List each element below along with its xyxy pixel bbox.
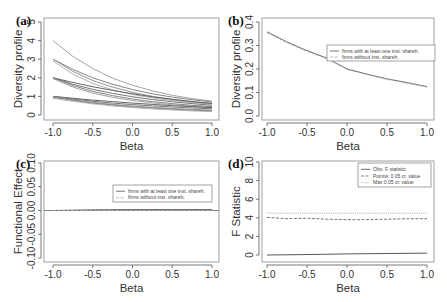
x-tick-label: 0.0 bbox=[126, 127, 140, 138]
y-tick-label: 8 bbox=[244, 177, 255, 183]
y-tick-label: 5 bbox=[26, 19, 37, 25]
y-tick-label: 0 bbox=[26, 112, 37, 118]
panel-c: (c)-1.0-0.50.00.51.0Beta-0.10-0.050.000.… bbox=[12, 153, 219, 294]
x-tick-label: 1.0 bbox=[420, 127, 434, 138]
panel-label: (d) bbox=[228, 156, 244, 171]
x-axis: -1.0-0.50.00.51.0 bbox=[44, 265, 219, 280]
y-tick-label: 0.0 bbox=[244, 109, 255, 123]
y-tick-label: 1 bbox=[26, 93, 37, 99]
x-axis: -1.0-0.50.00.51.0 bbox=[258, 123, 434, 138]
y-tick-label: 4 bbox=[26, 37, 37, 43]
panel-b: (b)-1.0-0.50.00.51.0Beta0.00.10.20.30.4D… bbox=[228, 13, 435, 152]
y-tick-label: 3 bbox=[26, 56, 37, 62]
y-tick-label: 6 bbox=[244, 196, 255, 202]
series-line-pointw-0-05-cr-value bbox=[267, 217, 427, 219]
panel-label: (b) bbox=[228, 13, 244, 28]
panel-a: (a)-1.0-0.50.00.51.0Beta012345Diversity … bbox=[12, 13, 219, 152]
x-tick-label: -0.5 bbox=[298, 127, 316, 138]
x-tick-label: -1.0 bbox=[258, 127, 276, 138]
x-axis-label: Beta bbox=[336, 140, 360, 152]
y-axis-label: Diversity profile bbox=[230, 30, 242, 109]
y-tick-label: 10 bbox=[244, 156, 255, 168]
x-tick-label: 0.0 bbox=[340, 127, 354, 138]
plot-frame bbox=[44, 161, 219, 262]
x-axis: -1.0-0.50.00.51.0 bbox=[258, 265, 434, 280]
x-tick-label: 1.0 bbox=[205, 269, 219, 280]
x-tick-label: 0.5 bbox=[380, 269, 394, 280]
x-axis: -1.0-0.50.00.51.0 bbox=[44, 123, 219, 138]
y-axis-label: Diversity profile bbox=[12, 30, 24, 109]
x-tick-label: -0.5 bbox=[298, 269, 316, 280]
x-tick-label: 1.0 bbox=[205, 127, 219, 138]
legend-entry-label: Obs. F statistic bbox=[373, 166, 407, 172]
legend: Obs. F statisticPointw. 0.05 cr. valueMa… bbox=[358, 163, 431, 187]
x-tick-label: 1.0 bbox=[420, 269, 434, 280]
legend-entry-label: Max 0.05 cr. value bbox=[373, 179, 414, 185]
y-tick-label: 0.2 bbox=[244, 62, 255, 76]
x-tick-label: 0.5 bbox=[380, 127, 394, 138]
x-axis-label: Beta bbox=[120, 282, 144, 294]
y-tick-label: 0 bbox=[244, 252, 255, 258]
y-tick-label: -0.05 bbox=[26, 222, 37, 245]
y-tick-label: 0.1 bbox=[244, 85, 255, 99]
x-tick-label: -0.5 bbox=[84, 127, 102, 138]
y-axis: 0.00.10.20.30.4 bbox=[244, 15, 259, 123]
x-tick-label: -1.0 bbox=[44, 127, 62, 138]
y-tick-label: 0.4 bbox=[244, 15, 255, 29]
series-line-obs-f-statistic bbox=[267, 253, 427, 255]
legend-entry-label: firms with at least one inst. shareh. bbox=[128, 188, 205, 194]
x-tick-label: 0.0 bbox=[126, 269, 140, 280]
legend-entry-label: firms without inst. shareh. bbox=[128, 194, 185, 200]
y-axis: -0.10-0.050.000.050.10 bbox=[26, 153, 41, 270]
y-axis: 0246810 bbox=[244, 156, 259, 258]
legend-entry-label: Pointw. 0.05 cr. value bbox=[373, 173, 420, 179]
y-axis: 012345 bbox=[26, 19, 41, 118]
x-tick-label: -0.5 bbox=[84, 269, 102, 280]
x-tick-label: 0.5 bbox=[165, 269, 179, 280]
series-group bbox=[53, 41, 212, 112]
x-axis-label: Beta bbox=[336, 282, 360, 294]
y-axis-label: Functional Effect bbox=[12, 168, 24, 254]
legend-entry-label: firms without inst. shareh. bbox=[342, 54, 399, 60]
y-tick-label: 0.05 bbox=[26, 177, 37, 197]
series-line-curve-2 bbox=[53, 59, 212, 102]
y-tick-label: 0.00 bbox=[26, 200, 37, 220]
legend: firms with at least one inst. shareh.fir… bbox=[327, 45, 435, 61]
y-tick-label: 0.3 bbox=[244, 38, 255, 52]
y-tick-label: 2 bbox=[244, 233, 255, 239]
x-tick-label: 0.5 bbox=[165, 127, 179, 138]
figure-canvas: (a)-1.0-0.50.00.51.0Beta012345Diversity … bbox=[0, 0, 447, 302]
y-tick-label: 0.10 bbox=[26, 153, 37, 173]
y-axis-label: F Statistic bbox=[230, 186, 242, 237]
series-group bbox=[267, 213, 427, 255]
x-tick-label: 0.0 bbox=[340, 269, 354, 280]
series-group bbox=[53, 210, 212, 211]
panel-d: (d)-1.0-0.50.00.51.0Beta0246810F Statist… bbox=[228, 156, 434, 294]
x-tick-label: -1.0 bbox=[44, 269, 62, 280]
x-tick-label: -1.0 bbox=[258, 269, 276, 280]
legend: firms with at least one inst. shareh.fir… bbox=[113, 185, 212, 202]
y-tick-label: -0.10 bbox=[26, 246, 37, 269]
y-tick-label: 2 bbox=[26, 75, 37, 81]
y-tick-label: 4 bbox=[244, 215, 255, 221]
x-axis-label: Beta bbox=[120, 140, 144, 152]
